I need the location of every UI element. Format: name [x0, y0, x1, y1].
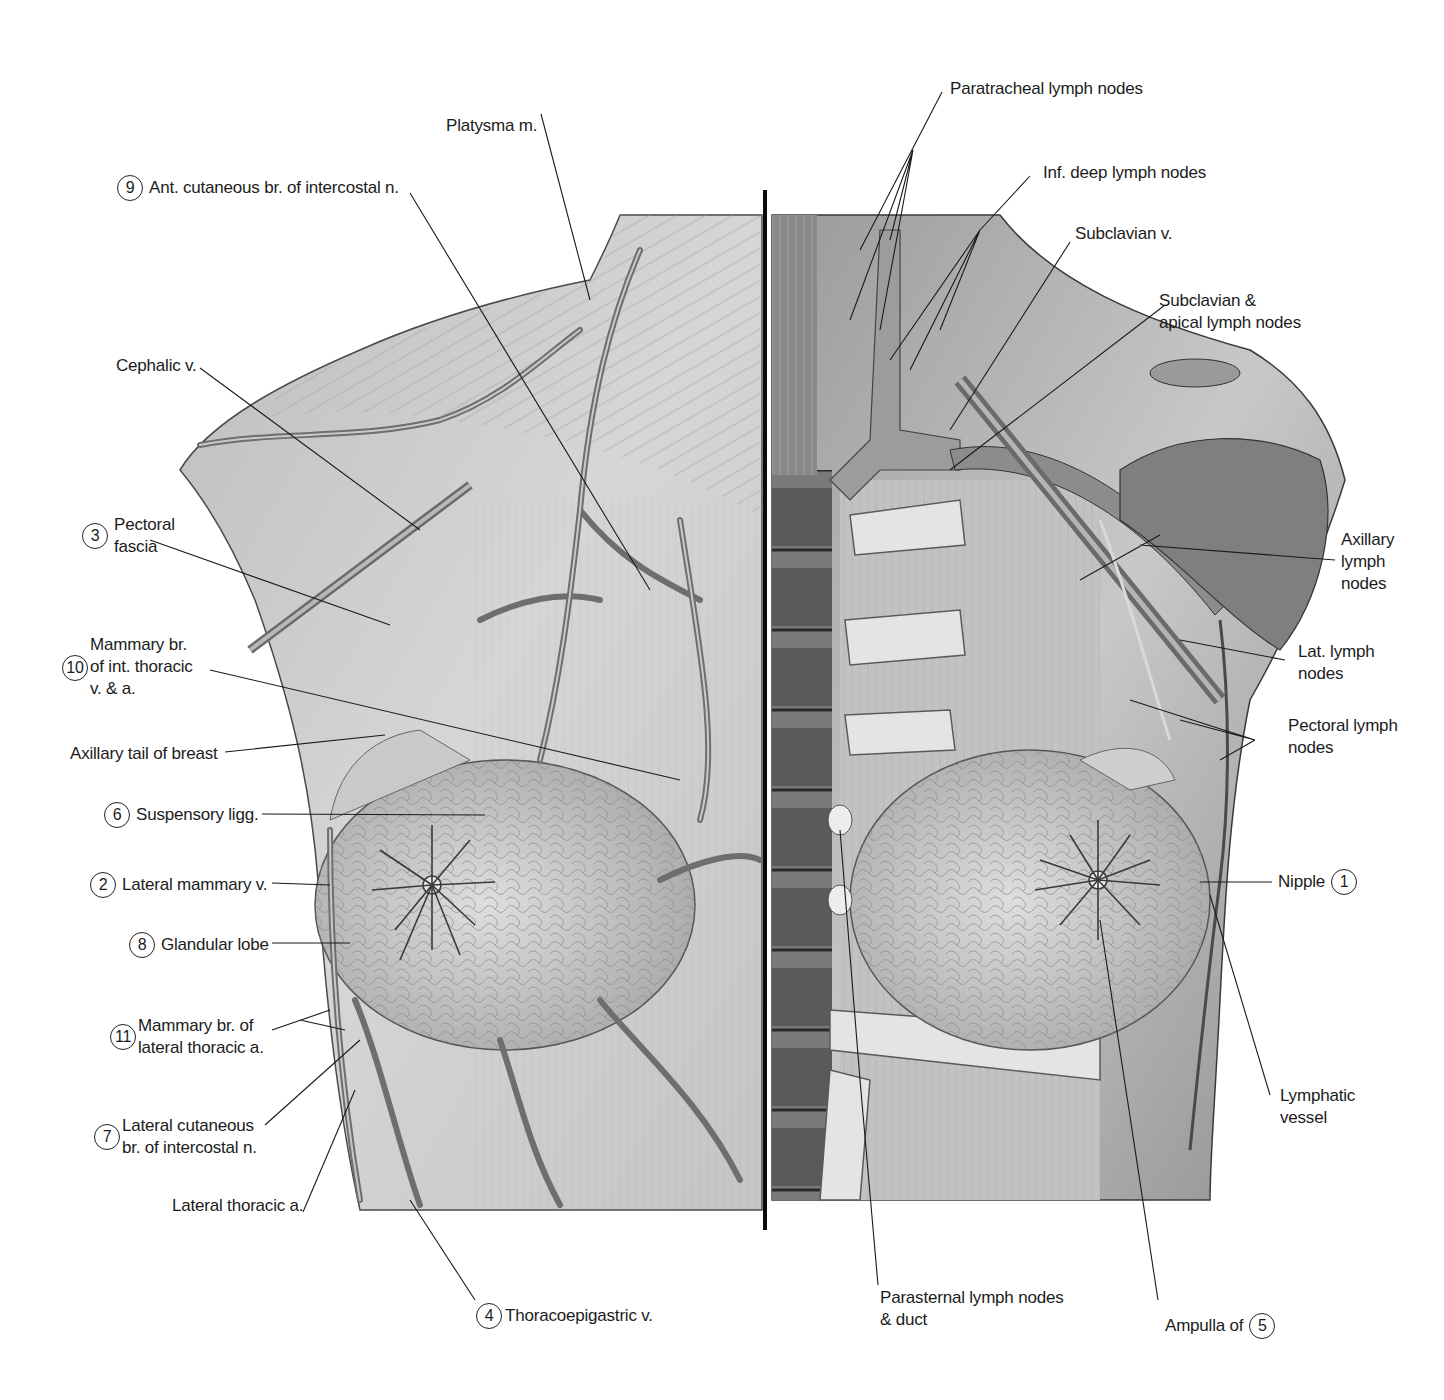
callout-number: 5 — [1249, 1313, 1275, 1339]
label-nipple: Nipple 1 — [1278, 869, 1357, 895]
callout-number: 8 — [129, 932, 155, 958]
label-axillary-tail: Axillary tail of breast — [70, 743, 218, 765]
label-pectoral-fascia: 3 Pectoral fascia — [82, 514, 175, 558]
callout-number: 6 — [104, 802, 130, 828]
callout-number: 4 — [476, 1303, 502, 1329]
label-ant-cutaneous-br-intercostal-n: 9 Ant. cutaneous br. of intercostal n. — [117, 175, 399, 201]
label-lat-lymph-nodes: Lat. lymph nodes — [1298, 641, 1374, 685]
label-suspensory-ligg: 6 Suspensory ligg. — [104, 802, 258, 828]
callout-number: 3 — [82, 523, 108, 549]
label-glandular-lobe: 8 Glandular lobe — [129, 932, 269, 958]
label-paratracheal-lymph-nodes: Paratracheal lymph nodes — [950, 78, 1143, 100]
callout-number: 11 — [110, 1024, 136, 1050]
label-platysma: Platysma m. — [446, 115, 537, 137]
callout-number: 7 — [94, 1124, 120, 1150]
label-lateral-mammary-v: 2 Lateral mammary v. — [90, 872, 267, 898]
label-lat-cutaneous-br: 7 Lateral cutaneous br. of intercostal n… — [94, 1115, 257, 1159]
callout-number: 2 — [90, 872, 116, 898]
label-lateral-thoracic-a: Lateral thoracic a. — [172, 1195, 303, 1217]
anatomy-illustration — [0, 0, 1444, 1400]
label-parasternal-lymph-nodes-duct: Parasternal lymph nodes & duct — [880, 1287, 1063, 1331]
label-mammary-br-int-thoracic: 10 Mammary br. of int. thoracic v. & a. — [62, 635, 193, 700]
label-inf-deep-lymph-nodes: Inf. deep lymph nodes — [1043, 162, 1206, 184]
label-mammary-br-lat-thoracic: 11 Mammary br. of lateral thoracic a. — [110, 1015, 264, 1059]
label-cephalic-v: Cephalic v. — [116, 355, 197, 377]
callout-number: 10 — [62, 655, 88, 681]
label-axillary-lymph-nodes: Axillary lymph nodes — [1341, 529, 1394, 595]
label-thoracoepigastric-v: 4 Thoracoepigastric v. — [476, 1303, 653, 1329]
label-lymphatic-vessel: Lymphatic vessel — [1280, 1085, 1355, 1129]
label-subclavian-apical-lymph-nodes: Subclavian & apical lymph nodes — [1159, 290, 1301, 334]
anatomy-figure: Platysma m. 9 Ant. cutaneous br. of inte… — [0, 0, 1444, 1400]
label-subclavian-v: Subclavian v. — [1075, 223, 1172, 245]
callout-number: 1 — [1331, 869, 1357, 895]
label-pectoral-lymph-nodes: Pectoral lymph nodes — [1288, 715, 1398, 759]
callout-number: 9 — [117, 175, 143, 201]
label-ampulla: Ampulla of 5 — [1165, 1313, 1275, 1339]
